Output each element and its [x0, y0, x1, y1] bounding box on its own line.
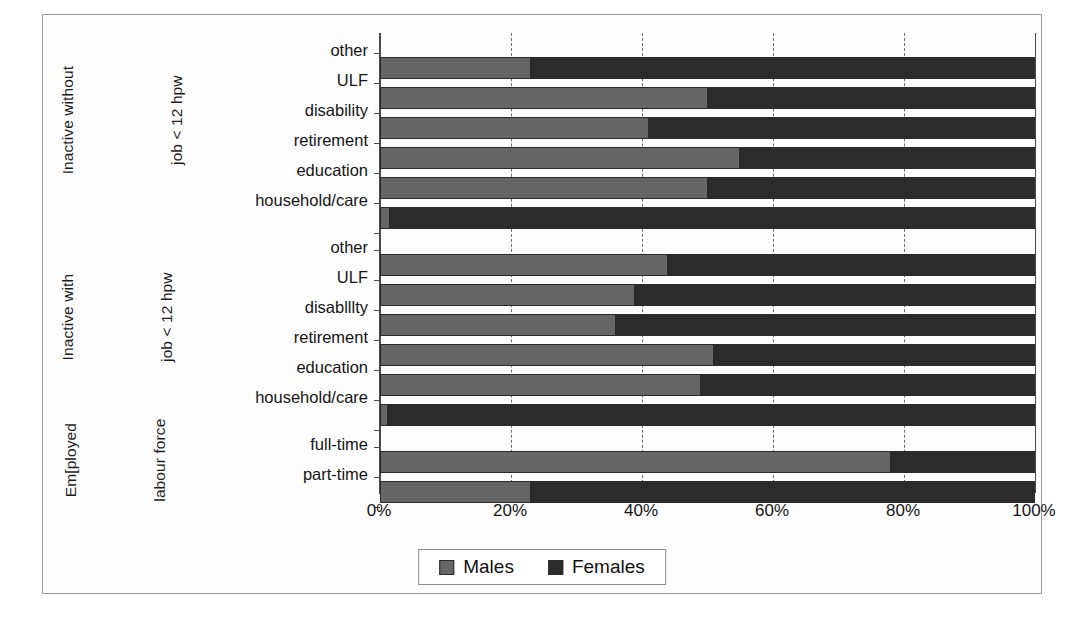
bar-segment-males	[380, 254, 668, 276]
y-axis-tick	[374, 280, 380, 281]
bar-segment-females	[714, 344, 1035, 366]
y-axis-tick	[374, 370, 380, 371]
y-axis-tick	[374, 173, 380, 174]
x-axis-tick-label: 40%	[624, 501, 658, 521]
bar-segment-males	[380, 147, 740, 169]
category-label: education	[296, 155, 368, 185]
bar-segment-males	[380, 374, 701, 396]
bar-row	[380, 207, 1035, 229]
bar-segment-males	[380, 451, 891, 473]
y-axis-tick	[374, 250, 380, 251]
legend-item-females: Females	[548, 556, 645, 578]
bar-segment-females	[635, 284, 1035, 306]
bar-row	[380, 87, 1035, 109]
bar-segment-males	[380, 117, 649, 139]
y-axis-tick	[374, 310, 380, 311]
category-label: full-time	[310, 429, 368, 459]
bar-segment-females	[701, 374, 1035, 396]
y-axis-tick	[374, 400, 380, 401]
bar-segment-males	[380, 404, 388, 426]
group-label-line-2: labour force	[152, 418, 168, 501]
category-label: household/care	[255, 382, 368, 412]
plot-area	[379, 33, 1035, 494]
bar-row	[380, 374, 1035, 396]
group-label-inactive-without-job: Inactive without job < 12 hpw	[43, 33, 193, 208]
y-axis-tick	[374, 233, 380, 234]
bar-row	[380, 481, 1035, 503]
y-axis-tick	[374, 447, 380, 448]
bar-segment-males	[380, 57, 531, 79]
y-axis-tick	[374, 430, 380, 431]
bar-segment-males	[380, 207, 390, 229]
category-label: disablllty	[305, 292, 368, 322]
bar-segment-females	[708, 87, 1036, 109]
bar-row	[380, 344, 1035, 366]
bar-segment-males	[380, 284, 635, 306]
bar-row	[380, 314, 1035, 336]
bar-row	[380, 117, 1035, 139]
group-label-inactive-with-job: Inactive with job < 12 hpw	[43, 230, 193, 405]
group-label-employed-labour-force: Em[ployed labour force	[43, 415, 193, 505]
bar-row	[380, 147, 1035, 169]
bar-segment-males	[380, 87, 708, 109]
bar-segment-males	[380, 344, 714, 366]
y-axis-tick	[374, 340, 380, 341]
bar-segment-females	[708, 177, 1036, 199]
category-label: retirement	[294, 125, 368, 155]
bar-row	[380, 451, 1035, 473]
chart-figure: Inactive without job < 12 hpw Inactive w…	[42, 14, 1042, 594]
x-axis-tick-label: 60%	[755, 501, 789, 521]
category-label: household/care	[255, 185, 368, 215]
y-axis-tick	[374, 477, 380, 478]
x-axis-tick-labels: 0%20%40%60%80%100%	[379, 501, 1034, 531]
category-label: education	[296, 352, 368, 382]
y-axis-tick	[374, 113, 380, 114]
bar-row	[380, 254, 1035, 276]
bar-row	[380, 284, 1035, 306]
bar-row	[380, 404, 1035, 426]
category-label: ULF	[337, 65, 368, 95]
bar-row	[380, 57, 1035, 79]
bar-segment-females	[891, 451, 1035, 473]
category-label: other	[330, 35, 368, 65]
bar-segment-males	[380, 177, 708, 199]
group-label-line-1: Inactive with	[60, 274, 76, 361]
y-axis-tick	[374, 83, 380, 84]
category-label: other	[330, 232, 368, 262]
gridline-100	[1035, 33, 1036, 493]
bar-segment-males	[380, 314, 616, 336]
y-axis-tick	[374, 203, 380, 204]
category-label: ULF	[337, 262, 368, 292]
group-label-line-2: job < 12 hpw	[169, 76, 185, 166]
y-axis-tick	[374, 53, 380, 54]
group-label-line-1: Em[ployed	[63, 423, 79, 497]
legend-item-males: Males	[439, 556, 514, 578]
group-label-line-2: job < 12 hpw	[158, 273, 174, 363]
bar-segment-females	[390, 207, 1035, 229]
legend-label-females: Females	[572, 556, 645, 578]
legend-label-males: Males	[463, 556, 514, 578]
legend-swatch-females-icon	[548, 560, 563, 575]
category-label: disability	[305, 95, 368, 125]
bar-segment-females	[649, 117, 1035, 139]
bar-row	[380, 177, 1035, 199]
bar-segment-females	[531, 57, 1035, 79]
legend-swatch-males-icon	[439, 560, 454, 575]
bar-segment-females	[740, 147, 1035, 169]
chart-legend: Males Females	[418, 549, 666, 585]
x-axis-tick-label: 0%	[367, 501, 392, 521]
category-label: part-time	[303, 459, 368, 489]
y-axis-tick	[374, 143, 380, 144]
category-label: retirement	[294, 322, 368, 352]
x-axis-tick-label: 100%	[1012, 501, 1055, 521]
group-label-line-1: Inactive without	[60, 66, 76, 174]
bar-segment-females	[531, 481, 1035, 503]
x-axis-tick-label: 80%	[886, 501, 920, 521]
bar-segment-males	[380, 481, 531, 503]
bar-segment-females	[616, 314, 1035, 336]
x-axis-tick-label: 20%	[493, 501, 527, 521]
bar-segment-females	[668, 254, 1035, 276]
bar-segment-females	[388, 404, 1035, 426]
